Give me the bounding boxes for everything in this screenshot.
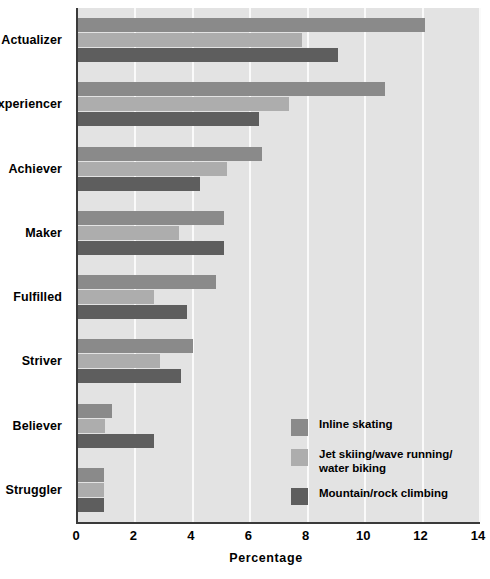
- category-label: Striver: [22, 354, 62, 368]
- bar-group: [78, 265, 480, 329]
- bar: [78, 48, 338, 62]
- bar: [78, 290, 154, 304]
- legend-item: Jet skiing/wave running/ water biking: [291, 448, 481, 475]
- x-tick-label: 4: [187, 528, 194, 543]
- category-label: Fulfilled: [13, 290, 62, 304]
- bar-group: [78, 329, 480, 393]
- category-label: Believer: [13, 419, 62, 433]
- bar: [78, 275, 216, 289]
- x-tick-label: 2: [130, 528, 137, 543]
- legend-item: Mountain/rock climbing: [291, 487, 481, 505]
- x-tick-label: 12: [413, 528, 427, 543]
- bar: [78, 112, 259, 126]
- category-label: Maker: [25, 226, 62, 240]
- x-tick-label: 8: [302, 528, 309, 543]
- x-tick-label: 10: [356, 528, 370, 543]
- bar-group: [78, 8, 480, 72]
- bar: [78, 498, 104, 512]
- bar: [78, 18, 425, 32]
- x-tick-label: 6: [245, 528, 252, 543]
- category-axis-labels: ActualizerExperiencerAchieverMakerFulfil…: [0, 8, 70, 522]
- bar: [78, 97, 289, 111]
- legend-label: Jet skiing/wave running/ water biking: [319, 448, 453, 475]
- bar: [78, 468, 104, 482]
- bar: [78, 434, 154, 448]
- bar: [78, 369, 181, 383]
- bar: [78, 305, 187, 319]
- bar: [78, 339, 193, 353]
- legend-label: Mountain/rock climbing: [319, 487, 448, 501]
- category-label: Actualizer: [1, 33, 62, 47]
- bar-group: [78, 201, 480, 265]
- bar: [78, 82, 385, 96]
- bar: [78, 177, 200, 191]
- legend-item: Inline skating: [291, 418, 481, 436]
- category-label: Struggler: [6, 483, 62, 497]
- x-tick-label: 14: [471, 528, 485, 543]
- legend-label: Inline skating: [319, 418, 393, 432]
- category-label: Achiever: [8, 162, 62, 176]
- bar: [78, 211, 224, 225]
- bar: [78, 354, 160, 368]
- bar: [78, 404, 112, 418]
- bar: [78, 147, 262, 161]
- legend-swatch: [291, 488, 308, 505]
- bar: [78, 162, 227, 176]
- x-tick-label: 0: [72, 528, 79, 543]
- bar-group: [78, 72, 480, 136]
- x-axis-ticks: 02468101214: [0, 528, 490, 548]
- x-axis-title: Percentage: [0, 551, 490, 565]
- bar-group: [78, 137, 480, 201]
- category-label: Experiencer: [0, 97, 62, 111]
- x-axis-title-text: Percentage: [229, 551, 302, 565]
- legend-swatch: [291, 419, 308, 436]
- legend-swatch: [291, 449, 308, 466]
- legend: Inline skatingJet skiing/wave running/ w…: [291, 418, 481, 517]
- bar: [78, 241, 224, 255]
- bar-chart: ActualizerExperiencerAchieverMakerFulfil…: [0, 0, 490, 579]
- bar: [78, 483, 104, 497]
- bar: [78, 419, 105, 433]
- bar: [78, 33, 302, 47]
- bar: [78, 226, 179, 240]
